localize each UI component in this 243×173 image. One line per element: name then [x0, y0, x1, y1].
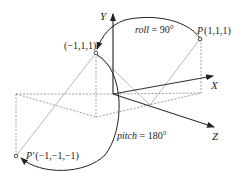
z-axis: [113, 94, 214, 127]
point-p-prime: [14, 154, 18, 158]
x-axis: [113, 76, 213, 94]
y-axis-label: Y: [100, 10, 108, 22]
point-mid: [94, 51, 98, 55]
point-p: [198, 37, 202, 41]
point-p-prime-label: P′(−1,−1,−1): [25, 150, 79, 162]
point-mid-label: (−1,1,1): [64, 40, 96, 52]
roll-label: roll = 90°: [135, 24, 174, 35]
dashed-projection-box: [16, 39, 201, 156]
z-axis-label: Z: [212, 130, 219, 142]
x-axis-label: X: [210, 79, 219, 91]
rotation-diagram: Y X Z P(1,1,1) (−1,1,1) P′(−1,−1,−1) rol…: [0, 0, 243, 173]
guide-lines: [16, 39, 200, 156]
pitch-label: pitch = 180°: [116, 130, 167, 141]
point-p-label: P(1,1,1): [196, 25, 231, 37]
